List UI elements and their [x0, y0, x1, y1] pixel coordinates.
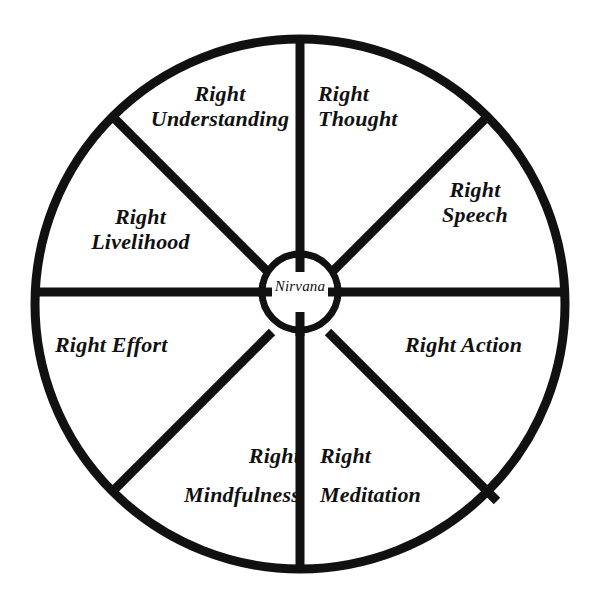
- sector-label-right-livelihood: Right Livelihood: [68, 205, 213, 254]
- sector-label-right-action: Right Action: [405, 333, 565, 358]
- sector-label-right-mindfulness: Right Mindfulness: [135, 437, 300, 514]
- eightfold-path-wheel: Right Understanding Right Thought Right …: [0, 0, 594, 598]
- sector-label-right-effort: Right Effort: [55, 333, 220, 358]
- sector-label-right-speech: Right Speech: [410, 178, 540, 227]
- sector-label-right-thought: Right Thought: [318, 82, 448, 131]
- hub-label-nirvana: Nirvana: [256, 278, 344, 295]
- sector-label-right-understanding: Right Understanding: [140, 82, 300, 131]
- sector-label-right-meditation: Right Meditation: [320, 437, 480, 514]
